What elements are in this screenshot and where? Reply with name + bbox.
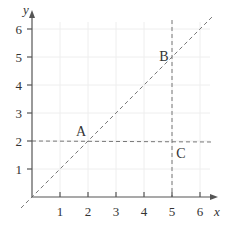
axes: [27, 10, 218, 200]
y-tick-3: 3: [16, 106, 23, 121]
y-tick-labels: 1 2 3 4 5 6: [16, 22, 23, 177]
y-tick-1: 1: [16, 162, 23, 177]
y-axis-arrow-icon: [29, 10, 35, 18]
x-tick-1: 1: [57, 204, 64, 219]
y-tick-2: 2: [16, 134, 23, 149]
x-tick-6: 6: [197, 204, 204, 219]
y-tick-5: 5: [16, 50, 23, 65]
coordinate-diagram: 1 2 3 4 5 6 1 2 3 4 5 6 x y A B C: [0, 0, 228, 225]
point-label-a: A: [76, 124, 87, 139]
x-tick-4: 4: [141, 204, 148, 219]
y-tick-6: 6: [16, 22, 23, 37]
x-axis-label: x: [213, 204, 220, 219]
x-tick-5: 5: [169, 204, 176, 219]
point-label-c: C: [176, 146, 185, 161]
y-tick-4: 4: [16, 78, 23, 93]
point-label-b: B: [159, 49, 168, 64]
x-tick-2: 2: [85, 204, 92, 219]
y-axis-label: y: [21, 2, 29, 17]
x-tick-3: 3: [113, 204, 120, 219]
x-axis-arrow-icon: [210, 194, 218, 200]
x-tick-labels: 1 2 3 4 5 6: [57, 204, 204, 219]
